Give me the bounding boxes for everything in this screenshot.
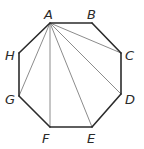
vertex-labels: ABCDEFGH: [5, 7, 135, 146]
octagon-diagram: ABCDEFGH: [0, 0, 144, 149]
diagonal-AD: [50, 23, 121, 94]
vertex-label-f: F: [42, 131, 50, 146]
diagonal-AG: [19, 23, 50, 96]
edge-HA: [19, 23, 50, 53]
edge-FG: [19, 96, 50, 127]
octagon-edges: [19, 23, 121, 127]
vertex-label-g: G: [5, 92, 15, 107]
edge-BC: [92, 23, 121, 53]
vertex-label-d: D: [125, 92, 135, 107]
vertex-label-a: A: [43, 7, 53, 22]
vertex-label-h: H: [5, 48, 15, 63]
vertex-label-c: C: [125, 48, 135, 63]
vertex-label-b: B: [87, 7, 96, 22]
edge-DE: [92, 94, 121, 127]
vertex-label-e: E: [87, 131, 96, 146]
